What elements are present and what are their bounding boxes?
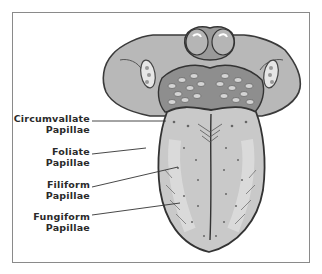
label-fungiform-papillae: Fungiform Papillae [33, 211, 90, 233]
tongue-body [158, 107, 264, 252]
label-circumvallate-papillae: Circumvallate Papillae [14, 113, 90, 135]
label-filiform-papillae: Filiform Papillae [46, 179, 90, 201]
epiglottis [185, 27, 235, 60]
leader-foliate [92, 148, 146, 154]
lingual-tonsil [158, 65, 263, 112]
label-foliate-papillae: Foliate Papillae [46, 146, 90, 168]
